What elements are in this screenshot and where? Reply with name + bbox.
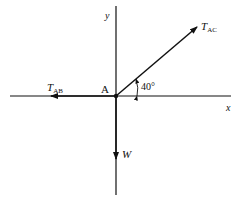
- force-label-t-ab: TAB: [47, 81, 63, 95]
- y-axis-label: y: [104, 10, 110, 21]
- angle-arc: [136, 79, 138, 96]
- force-label-w: W: [122, 148, 132, 160]
- force-arrow-t-ac: [116, 27, 197, 96]
- force-subscript-t-ab: AB: [53, 87, 63, 95]
- point-a-label: A: [101, 83, 109, 95]
- angle-label: 40°: [141, 81, 155, 92]
- point-a: [114, 94, 118, 98]
- force-subscript-t-ac: AC: [207, 26, 217, 34]
- x-axis-label: x: [225, 102, 231, 113]
- force-label-t-ac: TAC: [201, 20, 217, 34]
- free-body-diagram: A 40° x y TAC TAB W: [0, 0, 243, 198]
